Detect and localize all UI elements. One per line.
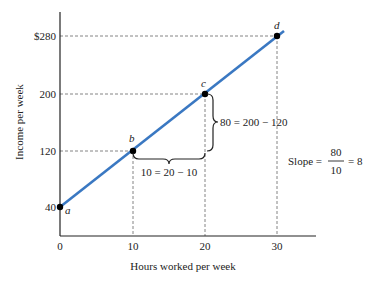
income-chart: 40 120 200 $280 0 10 20 30 Hours worked … (0, 0, 378, 282)
y-axis-title: Income per week (13, 84, 25, 160)
x-tick: 0 (57, 240, 63, 252)
rise-brace (207, 94, 218, 151)
y-tick: 40 (45, 201, 57, 213)
x-tick: 30 (272, 240, 284, 252)
run-brace (133, 153, 205, 164)
y-tick: 120 (40, 145, 57, 157)
x-axis-title: Hours worked per week (130, 260, 236, 272)
guide-lines (60, 36, 277, 236)
point-label-a: a (65, 204, 71, 216)
point-label-d: d (274, 19, 280, 31)
x-tick: 20 (200, 240, 212, 252)
slope-denominator: 10 (331, 164, 343, 176)
y-tick-labels: 40 120 200 $280 (34, 30, 57, 213)
point-a (57, 204, 63, 210)
point-label-c: c (201, 77, 206, 89)
point-label-b: b (129, 132, 135, 144)
slope-prefix: Slope = (288, 155, 322, 167)
point-d (274, 33, 280, 39)
slope-numerator: 80 (331, 146, 343, 158)
x-tick: 10 (128, 240, 140, 252)
rise-label: 80 = 200 − 120 (220, 116, 288, 128)
slope-formula: Slope = 80 10 = 8 (288, 146, 363, 176)
slope-result: = 8 (348, 155, 363, 167)
y-tick: $280 (34, 30, 57, 42)
run-label: 10 = 20 − 10 (141, 166, 198, 178)
x-tick-labels: 0 10 20 30 (57, 240, 283, 252)
y-tick: 200 (40, 88, 57, 100)
